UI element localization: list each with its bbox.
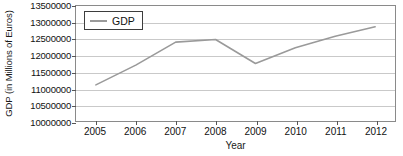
y-axis-tick-label: 12500000 [30,33,71,44]
legend-line-swatch-gdp [90,20,107,22]
y-axis-tick-label: 13000000 [30,16,71,27]
y-axis-tick-label: 11500000 [31,66,71,77]
x-axis-tick-label: 2005 [84,126,106,137]
series-line-gdp [96,27,375,85]
y-axis-tick-label: 12000000 [30,50,71,61]
y-axis-tick-labels: 1000000010500000110000001150000012000000… [16,0,74,126]
chart-legend: GDP [84,11,143,30]
y-axis-tick-label: 13500000 [30,0,71,11]
x-axis-tick-label: 2006 [124,126,146,137]
y-axis-tick-label: 10500000 [30,100,71,111]
x-axis-tick-mark [176,121,177,125]
x-axis-tick-labels: 20052006200720082009201020112012 [75,126,396,140]
x-axis-tick-mark [216,121,217,125]
x-axis-tick-label: 2008 [204,126,226,137]
y-axis-tick-mark [72,123,76,124]
gdp-line-chart: GDP (in Millions of Euros) 1000000010500… [0,0,403,156]
x-axis-tick-mark [257,121,258,125]
y-axis-tick-label: 11000000 [31,83,71,94]
x-axis-tick-mark [297,121,298,125]
x-axis-tick-label: 2010 [285,126,307,137]
x-axis-tick-mark [136,121,137,125]
x-axis-tick-label: 2009 [244,126,266,137]
y-axis-title: GDP (in Millions of Euros) [0,0,16,126]
x-axis-tick-mark [337,121,338,125]
y-axis-title-text: GDP (in Millions of Euros) [3,10,14,117]
x-axis-tick-mark [377,121,378,125]
x-axis-tick-label: 2011 [325,126,347,137]
x-axis-title: Year [75,140,396,151]
x-axis-tick-label: 2007 [164,126,186,137]
x-axis-tick-mark [96,121,97,125]
legend-label-gdp: GDP [112,15,135,27]
x-axis-tick-label: 2012 [365,126,387,137]
y-axis-tick-label: 10000000 [30,117,71,128]
